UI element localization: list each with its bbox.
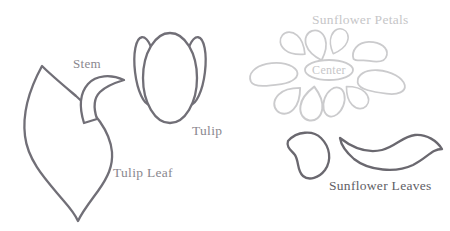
tulip-label: Tulip [192, 123, 222, 139]
sunflower-leaf-group [288, 133, 442, 179]
sunflower-petal [303, 28, 332, 64]
sunflower-leaves-label: Sunflower Leaves [329, 178, 432, 194]
stem-shape [81, 76, 124, 123]
template-shapes-canvas [0, 0, 450, 231]
flower-template-diagram: Stem Tulip Tulip Leaf Sunflower Petals C… [0, 0, 450, 231]
sunflower-petal [248, 60, 298, 89]
sunflower-leaf-left-shape [288, 133, 330, 179]
tulip-leaf-label: Tulip Leaf [113, 165, 173, 181]
sunflower-center-label: Center [312, 63, 346, 78]
sunflower-petal [299, 85, 326, 122]
sunflower-petal [353, 41, 388, 63]
stem-label: Stem [73, 56, 101, 72]
sunflower-leaf-right-shape [340, 135, 442, 170]
sunflower-petal [325, 26, 351, 57]
tulip-shape-group [24, 33, 209, 221]
sunflower-petal [319, 84, 348, 119]
tulip-center-petal [143, 33, 197, 123]
sunflower-petals-label: Sunflower Petals [312, 12, 409, 28]
